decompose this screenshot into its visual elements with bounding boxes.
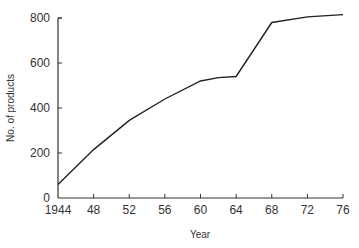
- x-axis-title: Year: [190, 229, 211, 240]
- x-tick-label: 76: [336, 203, 350, 217]
- data-line: [58, 15, 343, 185]
- y-tick-label: 800: [30, 11, 50, 25]
- axes: [58, 18, 343, 198]
- x-tick-label: 48: [87, 203, 101, 217]
- x-tick-label: 52: [123, 203, 137, 217]
- x-tick-label: 68: [265, 203, 279, 217]
- x-tick-label: 1944: [45, 203, 72, 217]
- y-tick-label: 200: [30, 146, 50, 160]
- ticks: 020040060080019444852566064687276: [30, 11, 350, 217]
- x-tick-label: 64: [229, 203, 243, 217]
- y-tick-label: 400: [30, 101, 50, 115]
- x-tick-label: 72: [301, 203, 315, 217]
- y-axis-title: No. of products: [5, 74, 16, 142]
- y-tick-label: 600: [30, 56, 50, 70]
- x-tick-label: 60: [194, 203, 208, 217]
- x-tick-label: 56: [158, 203, 172, 217]
- line-chart: 020040060080019444852566064687276 Year N…: [0, 0, 359, 248]
